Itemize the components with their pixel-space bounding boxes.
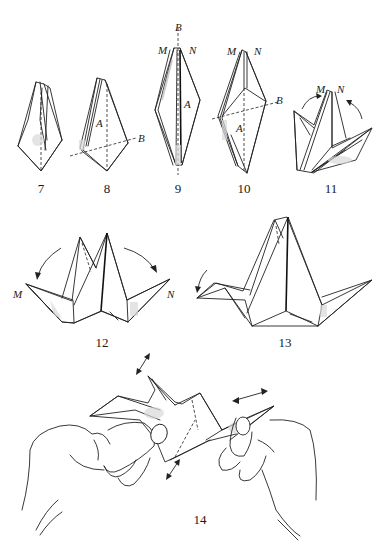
step-label-14: 14 [185, 512, 215, 528]
step-label-12: 12 [87, 335, 117, 351]
step-11-drawing [294, 90, 372, 173]
point-label-n-step12: N [167, 288, 174, 300]
point-label-n-step10: N [254, 45, 261, 57]
point-label-n-step9: N [189, 44, 196, 56]
step-label-8: 8 [92, 181, 122, 197]
point-label-b-step8: B [138, 132, 145, 144]
point-label-m-step10: M [227, 45, 236, 57]
step-14-drawing [22, 353, 316, 540]
point-label-a-step9: A [184, 98, 191, 110]
point-label-a-step10: A [236, 122, 243, 134]
point-label-b-step10: B [276, 94, 283, 106]
step-7-drawing [18, 82, 62, 171]
point-label-n-step11: N [337, 83, 344, 95]
point-label-b-step9: B [175, 21, 182, 33]
step-8-drawing [70, 78, 136, 171]
step-12-drawing [26, 233, 170, 323]
origami-diagram [0, 0, 387, 546]
step-13-drawing [195, 217, 372, 326]
step-label-10: 10 [229, 181, 259, 197]
point-label-m-step12: M [13, 288, 22, 300]
point-label-m-step11: M [316, 83, 325, 95]
step-label-7: 7 [26, 181, 56, 197]
step-label-11: 11 [316, 181, 346, 197]
step-10-drawing [212, 50, 278, 173]
step-label-13: 13 [270, 335, 300, 351]
point-label-m-step9: M [158, 44, 167, 56]
point-label-a-step8: A [96, 117, 103, 129]
step-label-9: 9 [163, 181, 193, 197]
